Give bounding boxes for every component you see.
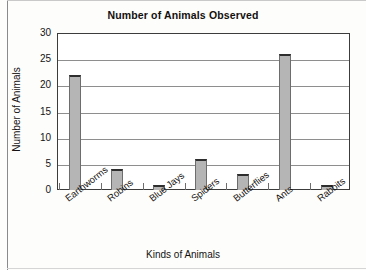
page-border-left (7, 0, 8, 270)
x-tick-mark (185, 183, 186, 190)
x-tick-mark (59, 183, 60, 190)
bar (69, 75, 81, 190)
x-tick-mark (310, 183, 311, 190)
y-tick-label: 25 (29, 54, 51, 64)
gridline (58, 113, 349, 114)
gridline (58, 139, 349, 140)
x-tick-mark (101, 183, 102, 190)
x-tick-mark (268, 183, 269, 190)
page-border-bottom (7, 268, 366, 269)
gridline (58, 60, 349, 61)
x-tick-mark (226, 183, 227, 190)
y-tick-label: 30 (29, 28, 51, 38)
y-tick-label: 20 (29, 80, 51, 90)
y-axis-title: Number of Animals (11, 50, 22, 170)
bar (279, 54, 291, 190)
y-tick-label: 5 (29, 159, 51, 169)
gridline (58, 86, 349, 87)
y-tick-label: 15 (29, 107, 51, 117)
x-tick-mark (143, 183, 144, 190)
x-axis-title: Kinds of Animals (0, 249, 366, 260)
y-tick-label: 10 (29, 133, 51, 143)
chart-title: Number of Animals Observed (0, 9, 366, 21)
chart-screenshot: Number of Animals Observed 051015202530 … (0, 0, 366, 270)
page-border-top (7, 0, 366, 1)
y-tick-label: 0 (29, 185, 51, 195)
